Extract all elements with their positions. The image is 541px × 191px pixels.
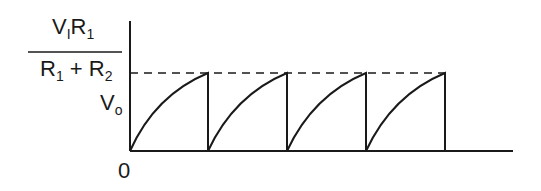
waveform	[130, 73, 445, 151]
cycle-4	[366, 73, 445, 151]
cycle-1	[130, 73, 208, 151]
cycle-3	[287, 73, 366, 151]
sawtooth-plot	[0, 0, 541, 191]
cycle-2	[208, 73, 287, 151]
